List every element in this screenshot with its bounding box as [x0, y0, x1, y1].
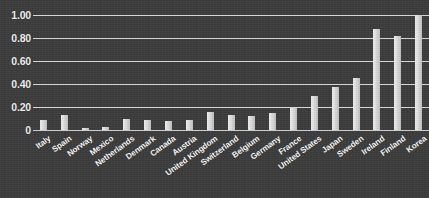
- y-axis-tick-label: 0.80: [11, 33, 31, 44]
- x-axis: ItalySpainNorwayMexicoNetherlandsDenmark…: [0, 130, 429, 198]
- bar: [311, 96, 318, 131]
- y-axis-tick-label: 0.20: [11, 102, 31, 113]
- gridline: [33, 38, 429, 39]
- bar: [123, 119, 130, 131]
- bar: [269, 113, 276, 130]
- bar: [186, 120, 193, 130]
- bar: [415, 15, 422, 130]
- bar: [332, 87, 339, 130]
- gridline: [33, 61, 429, 62]
- bar: [248, 116, 255, 130]
- y-axis-tick-label: 1.00: [11, 10, 31, 21]
- gridline: [33, 107, 429, 108]
- bar: [144, 120, 151, 130]
- x-axis-tick-label: Italy: [35, 134, 53, 151]
- gridline: [33, 15, 429, 16]
- gridline: [33, 84, 429, 85]
- bar: [373, 29, 380, 130]
- bar: [228, 115, 235, 130]
- bar: [353, 78, 360, 130]
- bar: [61, 115, 68, 130]
- bar: [40, 120, 47, 130]
- plot-area: [33, 15, 429, 130]
- bar: [290, 108, 297, 130]
- y-axis: 1.000.800.600.400.200: [0, 0, 31, 145]
- bar: [165, 121, 172, 130]
- bar: [207, 112, 214, 130]
- y-axis-tick-label: 0.40: [11, 79, 31, 90]
- bar: [394, 36, 401, 130]
- y-axis-tick-label: 0.60: [11, 56, 31, 67]
- x-axis-tick-label: Korea: [404, 134, 428, 155]
- bar-chart: 1.000.800.600.400.200 ItalySpainNorwayMe…: [0, 0, 429, 198]
